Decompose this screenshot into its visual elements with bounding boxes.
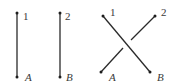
endpoint-dot-icon [100,71,103,74]
top-label-2: 2 [161,6,167,18]
top-label-1: 1 [110,6,116,18]
bottom-label-A: A [108,71,116,83]
endpoint-dot-icon [149,71,152,74]
endpoint-dot-icon [102,15,105,18]
strand-1-to-B-over [102,15,152,74]
endpoint-dot-icon [16,12,19,15]
strand-1-to-A [16,12,19,79]
top-label-2: 2 [65,10,71,22]
parallel-strands-panel: 1 A 2 B [16,10,74,83]
bottom-label-B: B [157,71,164,83]
strand-2-to-A-under [100,15,157,74]
endpoint-dot-icon [59,12,62,15]
top-label-1: 1 [23,10,29,22]
endpoint-dot-icon [154,15,157,18]
crossing-strands-panel: 1 2 A B [100,6,167,83]
bottom-label-A: A [24,71,32,83]
strand-2-to-B [59,12,62,79]
bottom-label-B: B [66,71,73,83]
endpoint-dot-icon [16,76,19,79]
braid-diagram: 1 A 2 B 1 2 A B [0,0,176,83]
endpoint-dot-icon [59,76,62,79]
